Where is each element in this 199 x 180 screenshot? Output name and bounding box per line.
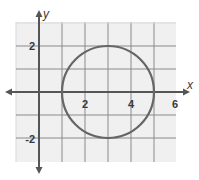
y-axis-label: y <box>42 7 50 21</box>
y-axis-up-arrow-icon <box>36 10 43 17</box>
y-tick-label-2: 2 <box>29 40 35 52</box>
y-tick-label-neg2: -2 <box>25 133 35 145</box>
x-tick-label-6: 6 <box>172 98 178 110</box>
x-tick-label-2: 2 <box>82 98 88 110</box>
x-axis-label: x <box>186 78 194 92</box>
x-axis-left-arrow-icon <box>5 89 12 96</box>
coordinate-plane: 2 4 6 2 -2 x y <box>0 0 199 180</box>
x-tick-label-4: 4 <box>128 98 135 110</box>
y-axis-down-arrow-icon <box>36 167 43 174</box>
